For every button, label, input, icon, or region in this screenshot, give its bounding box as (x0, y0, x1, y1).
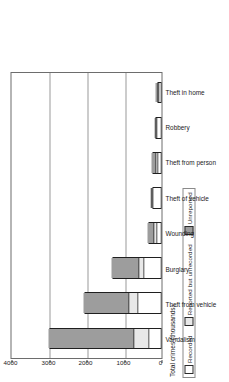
category-label: Theft in home (165, 88, 204, 95)
category-slot: Theft of vehicle (163, 180, 223, 215)
category-slot: Theft in home (163, 74, 223, 109)
category-axis-labels: VandalismTheft from vehicleBurglaryWound… (163, 72, 223, 359)
category-label: Robbery (165, 124, 189, 131)
category-slot: Burglary (163, 251, 223, 286)
category-slot: Robbery (163, 109, 223, 144)
category-label: Theft from vehicle (165, 300, 216, 307)
category-label: Theft of vehicle (165, 194, 208, 201)
category-label: Burglary (165, 265, 189, 272)
tick-label: 1000 (116, 359, 130, 366)
category-slot: Wounding (163, 216, 223, 251)
category-slot: Theft from vehicle (163, 286, 223, 321)
rotated-figure: Recorded Reported but unrecorded Unrepor… (0, 0, 229, 382)
tick-label: 2000 (78, 359, 92, 366)
tick-label: 4000 (3, 359, 17, 366)
category-slot: Vandalism (163, 322, 223, 357)
category-label: Wounding (165, 230, 194, 237)
category-slot: Theft from person (163, 145, 223, 180)
tick-label: 3000 (41, 359, 55, 366)
category-label: Vandalism (165, 336, 194, 343)
chart-canvas: Recorded Reported but unrecorded Unrepor… (0, 0, 229, 382)
category-label: Theft from person (165, 159, 215, 166)
tick-label: 0 (158, 359, 161, 366)
